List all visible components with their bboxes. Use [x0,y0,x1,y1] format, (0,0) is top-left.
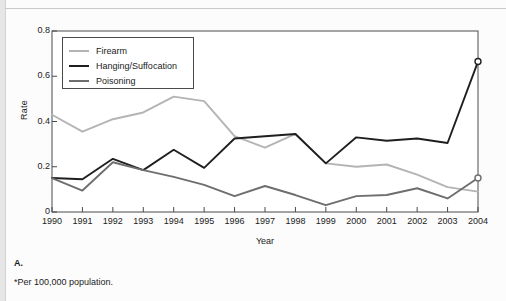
y-axis-tick-labels: 00.20.40.60.8 [2,0,50,301]
y-tick-label: 0.4 [10,116,50,126]
x-tick-label: 1996 [218,216,252,226]
x-tick-label: 2004 [461,216,495,226]
legend-item: Firearm [69,44,127,58]
y-tick-label: 0.8 [10,25,50,35]
x-tick-label: 2003 [431,216,465,226]
panel-letter: A. [14,258,23,268]
legend-label: Hanging/Suffocation [96,62,177,71]
x-tick-label: 2000 [339,216,373,226]
y-tick-label: 0.2 [10,161,50,171]
x-tick-label: 1991 [65,216,99,226]
x-axis-label: Year [52,236,478,246]
x-tick-label: 1992 [96,216,130,226]
x-tick-label: 2001 [370,216,404,226]
x-tick-label: 1994 [157,216,191,226]
legend-label: Firearm [96,47,127,56]
chart-legend: FirearmHanging/SuffocationPoisoning [62,37,194,89]
x-tick-label: 1997 [248,216,282,226]
legend-swatch-line [69,65,89,67]
legend-item: Poisoning [69,74,136,88]
x-tick-label: 1995 [187,216,221,226]
legend-swatch-line [69,50,89,52]
figure-footnote: *Per 100,000 population. [14,277,113,287]
x-tick-label: 1998 [278,216,312,226]
x-tick-label: 1993 [126,216,160,226]
y-axis-label: Rate [19,80,29,140]
figure-panel-a: 00.20.40.60.8 Rate Year 1990199119921993… [0,0,506,301]
y-tick-label: 0 [10,206,50,216]
x-tick-label: 1999 [309,216,343,226]
legend-swatch-line [69,80,89,82]
legend-label: Poisoning [96,77,136,86]
x-tick-label: 2002 [400,216,434,226]
legend-item: Hanging/Suffocation [69,59,177,73]
x-tick-label: 1990 [35,216,69,226]
y-tick-label: 0.6 [10,70,50,80]
